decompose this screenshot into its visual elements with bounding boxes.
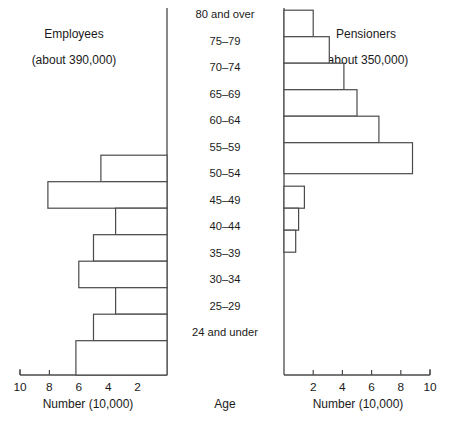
right-bars: [284, 10, 413, 252]
right-tick-label: 2: [310, 380, 317, 394]
center-axis-caption: Age: [214, 397, 236, 411]
age-label-25-29: 25–29: [209, 300, 240, 312]
left-tick-label: 8: [46, 380, 53, 394]
right-panel-pensioners: Pensioners (about 350,000) 2 4 6 8 10 Nu…: [284, 8, 437, 411]
bar-pensioners-65-69: [284, 90, 357, 117]
bar-employees-40-44: [94, 235, 168, 262]
population-pyramid-chart: Employees (about 390,000) 10 8 6 4 2 Num…: [0, 0, 451, 428]
bar-pensioners-70-74: [284, 63, 344, 89]
bar-employees-25-29: [94, 314, 168, 341]
bar-pensioners-50-54: [284, 186, 304, 208]
right-tick-label: 8: [398, 380, 405, 394]
left-panel-employees: Employees (about 390,000) 10 8 6 4 2 Num…: [13, 8, 167, 411]
age-label-45-49: 45–49: [209, 194, 240, 206]
center-age-axis: 80 and over 75–79 70–74 65–69 60–64 55–5…: [192, 8, 258, 411]
right-tick-label: 10: [423, 380, 437, 394]
left-tick-label: 4: [105, 380, 112, 394]
bar-employees-50-54: [48, 182, 167, 209]
bar-pensioners-80-over: [284, 10, 313, 37]
left-tick-label: 6: [76, 380, 83, 394]
age-label-70-74: 70–74: [209, 61, 240, 73]
left-panel-subtitle: (about 390,000): [32, 53, 117, 67]
age-label-80-and-over: 80 and over: [195, 8, 254, 20]
bar-pensioners-40-44: [284, 230, 296, 252]
bar-employees-30-34: [116, 288, 167, 315]
left-tick-label: 2: [134, 380, 141, 394]
age-label-35-39: 35–39: [209, 247, 240, 259]
age-label-75-79: 75–79: [209, 35, 240, 47]
bar-employees-24-under: [76, 341, 167, 375]
left-panel-title: Employees: [44, 27, 103, 41]
age-label-40-44: 40–44: [209, 220, 240, 232]
age-label-50-54: 50–54: [209, 167, 240, 179]
age-label-65-69: 65–69: [209, 88, 240, 100]
bar-pensioners-55-59: [284, 143, 413, 174]
bar-pensioners-75-79: [284, 37, 329, 64]
right-tick-label: 4: [339, 380, 346, 394]
right-tick-marks: [313, 370, 430, 375]
age-label-30-34: 30–34: [209, 273, 240, 285]
bar-employees-35-39: [79, 261, 167, 288]
bar-employees-45-49: [116, 208, 167, 235]
left-axis-caption: Number (10,000): [43, 397, 134, 411]
age-label-24-and-under: 24 and under: [192, 326, 258, 338]
right-axis-caption: Number (10,000): [313, 397, 404, 411]
left-tick-labels: 10 8 6 4 2: [13, 380, 140, 394]
right-panel-title: Pensioners: [336, 27, 396, 41]
age-label-60-64: 60–64: [209, 114, 240, 126]
left-bars: [48, 155, 167, 375]
bar-pensioners-60-64: [284, 116, 379, 143]
bar-employees-55-59: [101, 155, 167, 182]
left-tick-label: 10: [13, 380, 27, 394]
age-label-55-59: 55–59: [209, 141, 240, 153]
right-tick-labels: 2 4 6 8 10: [310, 380, 437, 394]
right-tick-label: 6: [368, 380, 375, 394]
bar-pensioners-45-49: [284, 208, 299, 230]
